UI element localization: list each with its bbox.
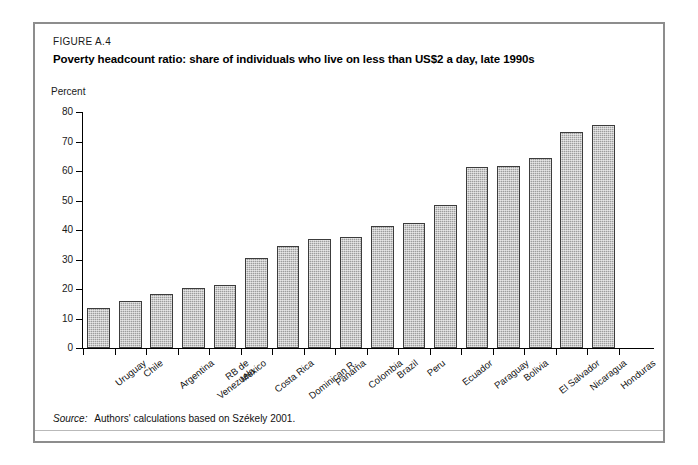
bar — [371, 226, 394, 348]
x-axis-tick — [209, 349, 210, 355]
bar — [497, 166, 520, 348]
y-axis-tick — [76, 201, 82, 202]
y-axis-tick-label-text: 70 — [51, 137, 73, 147]
y-axis-tick-label-text: 40 — [51, 225, 73, 235]
x-axis-tick — [430, 349, 431, 355]
x-axis-tick — [241, 349, 242, 355]
y-axis-tick-label: 40 — [45, 225, 73, 235]
source-text: Authors' calculations based on Székely 2… — [94, 413, 295, 424]
y-axis-tick-label-text: 10 — [51, 314, 73, 324]
x-axis-tick — [83, 349, 84, 355]
bar — [182, 288, 205, 348]
y-axis-tick-label-text: 60 — [51, 166, 73, 176]
bar — [403, 223, 426, 348]
x-axis-tick — [115, 349, 116, 355]
bar — [119, 301, 142, 348]
bar — [340, 237, 363, 349]
x-axis-label-line: Ecuador — [460, 358, 494, 388]
x-axis-tick — [367, 349, 368, 355]
y-axis-tick — [76, 289, 82, 290]
x-axis-tick — [178, 349, 179, 355]
x-axis-tick — [146, 349, 147, 355]
y-axis-tick — [76, 260, 82, 261]
y-axis-tick-label-text: 0 — [51, 343, 73, 353]
y-axis-tick — [76, 348, 82, 349]
x-axis-tick — [461, 349, 462, 355]
bar — [529, 158, 552, 348]
y-axis-tick-label: 60 — [45, 166, 73, 176]
x-axis-line — [82, 348, 654, 349]
y-axis-tick-label: 80 — [45, 107, 73, 117]
y-axis-tick-label-text: 50 — [51, 196, 73, 206]
x-axis-label-line: Peru — [425, 358, 447, 378]
figure-page: FIGURE A.4 Poverty headcount ratio: shar… — [0, 0, 698, 465]
source-note: Source: Authors' calculations based on S… — [53, 413, 295, 424]
source-label: Source: — [53, 413, 87, 424]
bar — [87, 308, 110, 348]
x-axis-tick — [556, 349, 557, 355]
x-axis-label: Ecuador — [460, 358, 494, 388]
y-axis-tick-label: 30 — [45, 255, 73, 265]
y-axis-tick-label: 10 — [45, 314, 73, 324]
y-axis-tick-label-text: 80 — [51, 107, 73, 117]
x-axis-label: Peru — [425, 358, 447, 378]
bar-chart-plot: 01020304050607080 UruguayChileArgentinaR… — [35, 24, 667, 445]
bar — [560, 132, 583, 348]
bar — [592, 125, 615, 348]
x-axis-label-line: Chile — [142, 358, 165, 379]
y-axis-tick — [76, 319, 82, 320]
y-axis-tick-label: 70 — [45, 137, 73, 147]
y-axis-tick — [76, 171, 82, 172]
bar — [434, 205, 457, 348]
bar — [277, 246, 300, 348]
y-axis-tick-label-text: 20 — [51, 284, 73, 294]
bar — [150, 294, 173, 348]
y-axis-tick-label: 50 — [45, 196, 73, 206]
x-axis-tick — [619, 349, 620, 355]
x-axis-tick — [493, 349, 494, 355]
y-axis-tick-label-text: 30 — [51, 255, 73, 265]
x-axis-tick — [524, 349, 525, 355]
x-axis-tick — [587, 349, 588, 355]
x-axis-tick — [272, 349, 273, 355]
bars-container — [83, 112, 619, 348]
source-divider — [35, 430, 663, 431]
figure-frame: FIGURE A.4 Poverty headcount ratio: shar… — [33, 22, 665, 443]
x-axis-tick — [304, 349, 305, 355]
bar — [466, 167, 489, 348]
y-axis-tick-label: 0 — [45, 343, 73, 353]
x-axis-label: Chile — [142, 358, 165, 379]
y-axis-tick — [76, 112, 82, 113]
y-axis-tick — [76, 230, 82, 231]
bar — [308, 239, 331, 348]
bar — [245, 258, 268, 348]
x-axis-tick — [398, 349, 399, 355]
y-axis-tick — [76, 142, 82, 143]
bar — [214, 285, 237, 348]
y-axis-tick-label: 20 — [45, 284, 73, 294]
x-axis-tick — [335, 349, 336, 355]
